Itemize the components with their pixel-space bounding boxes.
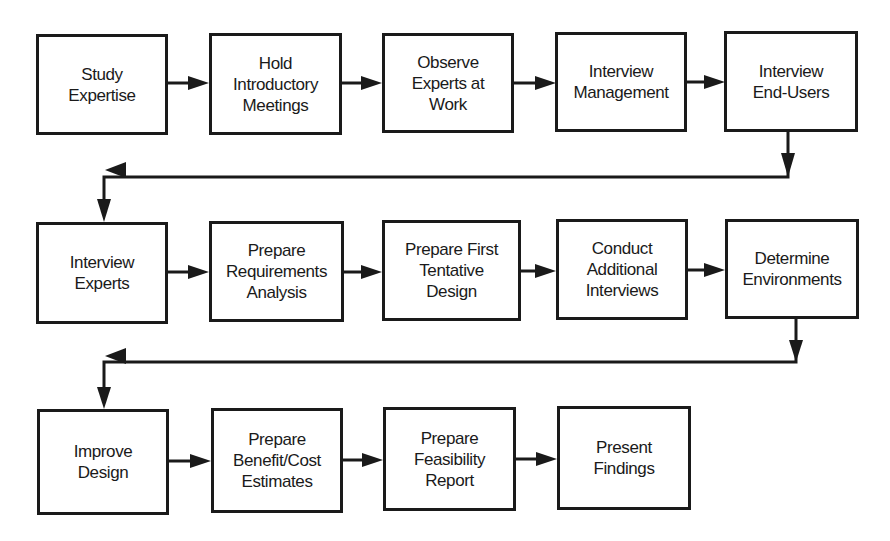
step-conduct-additional-interviews: Conduct Additional Interviews	[556, 219, 688, 320]
step-label: Prepare Benefit/Cost Estimates	[233, 429, 321, 492]
step-label: Study Expertise	[68, 64, 135, 106]
arrowhead-icon	[190, 454, 211, 468]
arrowhead-icon	[535, 76, 556, 90]
arrowhead-icon	[535, 264, 556, 278]
arrowhead-icon	[704, 263, 725, 277]
step-prepare-benefit-cost-estimates: Prepare Benefit/Cost Estimates	[211, 408, 343, 513]
arrowhead-icon	[361, 76, 382, 90]
step-label: Prepare First Tentative Design	[405, 239, 498, 302]
step-hold-introductory-meetings: Hold Introductory Meetings	[209, 33, 342, 135]
step-improve-design: Improve Design	[37, 409, 169, 515]
step-label: Determine Environments	[742, 248, 841, 290]
step-label: Hold Introductory Meetings	[233, 53, 318, 116]
step-interview-end-users: Interview End-Users	[724, 31, 858, 132]
step-present-findings: Present Findings	[557, 406, 691, 510]
step-determine-environments: Determine Environments	[725, 219, 859, 319]
step-prepare-requirements-analysis: Prepare Requirements Analysis	[209, 221, 344, 322]
arrowhead-icon	[789, 340, 803, 362]
step-label: Present Findings	[593, 437, 654, 479]
step-label: Prepare Feasibility Report	[414, 428, 485, 491]
step-interview-management: Interview Management	[555, 32, 687, 132]
step-label: Interview Management	[573, 61, 668, 103]
step-label: Interview Experts	[70, 252, 134, 294]
step-observe-experts-at-work: Observe Experts at Work	[382, 33, 514, 133]
arrowhead-icon	[781, 153, 795, 177]
step-label: Interview End-Users	[753, 61, 830, 103]
flowchart-canvas: Study Expertise Hold Introductory Meetin…	[0, 0, 890, 541]
step-label: Observe Experts at Work	[412, 52, 485, 115]
step-label: Conduct Additional Interviews	[586, 238, 659, 301]
step-interview-experts: Interview Experts	[36, 222, 168, 324]
step-prepare-first-tentative-design: Prepare First Tentative Design	[382, 220, 521, 321]
arrowhead-icon	[97, 199, 111, 222]
arrow-s10-s11	[104, 318, 796, 393]
arrowhead-icon	[97, 387, 111, 409]
arrow-s5-s6	[104, 131, 788, 205]
step-label: Improve Design	[74, 441, 133, 483]
step-study-expertise: Study Expertise	[36, 34, 168, 135]
step-prepare-feasibility-report: Prepare Feasibility Report	[383, 407, 516, 511]
arrowhead-icon	[704, 75, 725, 89]
arrowhead-icon	[362, 453, 383, 467]
step-label: Prepare Requirements Analysis	[226, 240, 327, 303]
arrowhead-icon	[536, 452, 557, 466]
arrowhead-icon	[361, 265, 382, 279]
arrowhead-icon	[188, 76, 209, 90]
arrowhead-icon	[188, 265, 209, 279]
